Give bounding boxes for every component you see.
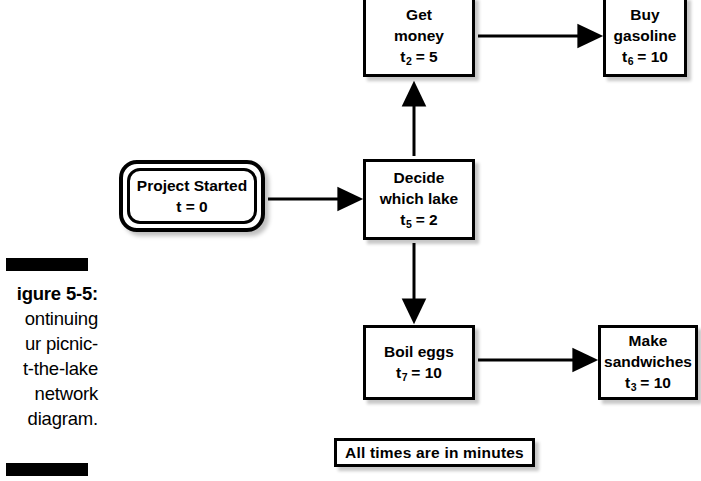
node-buy-gasoline[interactable]: Buy gasoline t6 = 10	[603, 0, 687, 77]
node-project-started-title: Project Started	[137, 175, 247, 196]
node-buy-gasoline-duration-value: 10	[651, 48, 668, 65]
node-make-sandwiches-duration-subscript: 3	[631, 381, 637, 393]
node-decide-which-lake-duration-subscript: 5	[406, 218, 412, 230]
node-decide-which-lake-duration: t5 = 2	[400, 209, 437, 232]
node-boil-eggs-duration: t7 = 10	[396, 362, 442, 385]
node-boil-eggs[interactable]: Boil eggs t7 = 10	[363, 325, 475, 400]
node-buy-gasoline-title: Buy gasoline	[614, 4, 677, 46]
node-make-sandwiches-duration-value: 10	[654, 374, 671, 391]
node-buy-gasoline-duration-symbol: t	[622, 48, 627, 65]
node-decide-which-lake-duration-symbol: t	[400, 211, 405, 228]
node-project-started[interactable]: Project Started t = 0	[119, 160, 265, 232]
node-make-sandwiches-duration-symbol: t	[625, 374, 630, 391]
node-boil-eggs-title: Boil eggs	[384, 341, 454, 362]
network-diagram: Project Started t = 0 Get money t2 = 5 B…	[0, 0, 701, 481]
node-get-money-duration-subscript: 2	[406, 55, 412, 67]
node-boil-eggs-duration-subscript: 7	[402, 371, 408, 383]
node-get-money-duration: t2 = 5	[400, 46, 437, 69]
node-get-money-title: Get money	[394, 4, 444, 46]
node-buy-gasoline-duration: t6 = 10	[622, 46, 668, 69]
node-decide-which-lake-duration-value: 2	[429, 211, 438, 228]
diagram-edge-layer	[0, 0, 701, 481]
node-decide-which-lake-title: Decide which lake	[380, 167, 458, 209]
node-get-money-duration-symbol: t	[400, 48, 405, 65]
node-project-started-inner: Project Started t = 0	[127, 168, 257, 224]
node-project-started-duration: t = 0	[176, 196, 207, 217]
node-get-money-duration-value: 5	[429, 48, 438, 65]
legend-all-times-note: All times are in minutes	[334, 438, 535, 467]
node-make-sandwiches[interactable]: Make sandwiches t3 = 10	[598, 325, 698, 400]
node-boil-eggs-duration-value: 10	[425, 364, 442, 381]
node-buy-gasoline-duration-subscript: 6	[628, 55, 634, 67]
node-make-sandwiches-title: Make sandwiches	[604, 330, 692, 372]
node-boil-eggs-duration-symbol: t	[396, 364, 401, 381]
node-get-money[interactable]: Get money t2 = 5	[363, 0, 475, 77]
node-make-sandwiches-duration: t3 = 10	[625, 372, 671, 395]
node-decide-which-lake[interactable]: Decide which lake t5 = 2	[363, 159, 475, 240]
legend-text: All times are in minutes	[345, 444, 524, 462]
figure-page: igure 5-5: ontinuing ur picnic- t-the-la…	[0, 0, 701, 481]
